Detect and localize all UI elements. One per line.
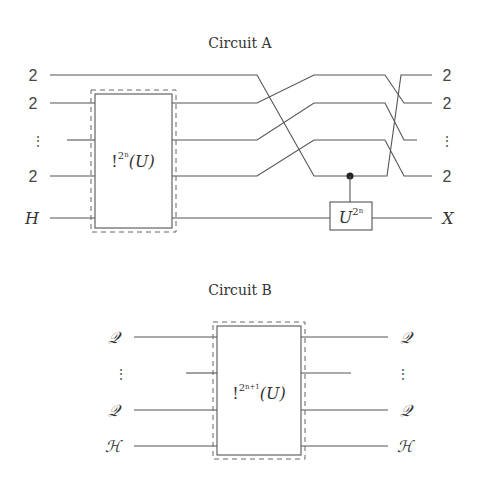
circuit-b-input-label-h: ℋ <box>105 437 123 456</box>
circuit-a-input-ellipsis: ⋮ <box>31 133 45 149</box>
circuit-a-output-label-2: 2 <box>443 95 452 112</box>
circuit-a-input-label-h: H <box>24 209 40 228</box>
circuit-a-wire-3-out <box>172 103 417 140</box>
circuit-a-wire-2-out <box>172 75 432 103</box>
circuit-a: Circuit A 2 2 ⋮ 2 H !2n(U) U2n <box>24 35 454 232</box>
circuit-b-output-label-h: ℋ <box>397 437 415 456</box>
circuit-a-input-label-2: 2 <box>29 95 38 112</box>
circuit-a-output-ellipsis: ⋮ <box>440 133 454 149</box>
circuit-diagrams: Circuit A 2 2 ⋮ 2 H !2n(U) U2n <box>0 0 479 480</box>
circuit-a-output-label-1: 2 <box>443 67 452 84</box>
circuit-b-input-label-q1: 𝒬 <box>108 328 122 347</box>
circuit-a-input-label-1: 2 <box>29 67 38 84</box>
circuit-a-wire-4-out <box>172 140 432 176</box>
circuit-b-input-label-qn: 𝒬 <box>108 401 122 420</box>
circuit-b-output-label-qn: 𝒬 <box>400 401 414 420</box>
circuit-a-input-label-n: 2 <box>29 168 38 185</box>
circuit-b: Circuit B 𝒬 ⋮ 𝒬 ℋ !2n+1(U) 𝒬 ⋮ 𝒬 ℋ <box>105 282 415 459</box>
circuit-a-output-label-x: X <box>440 209 454 228</box>
circuit-b-title: Circuit B <box>208 282 272 298</box>
circuit-a-output-label-n: 2 <box>443 168 452 185</box>
circuit-b-output-label-q1: 𝒬 <box>400 328 414 347</box>
circuit-b-input-ellipsis: ⋮ <box>114 366 128 382</box>
circuit-a-title: Circuit A <box>208 35 272 51</box>
circuit-b-output-ellipsis: ⋮ <box>396 366 410 382</box>
